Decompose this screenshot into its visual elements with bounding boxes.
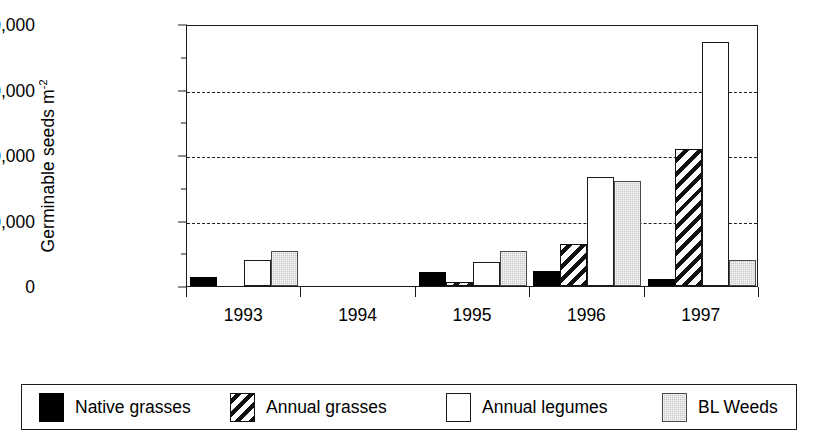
legend-swatch-white-outline xyxy=(446,393,471,422)
bar-1995-bl-weeds xyxy=(500,251,527,286)
bar-1993-bl-weeds xyxy=(271,251,298,286)
bar-1993-native-grasses xyxy=(190,277,217,286)
legend-swatch-gray-fill xyxy=(662,393,687,422)
gridline xyxy=(187,92,757,93)
x-axis-tick-mark xyxy=(415,287,416,297)
y-axis-title-exponent: -2 xyxy=(37,79,49,89)
bar-1996-native-grasses xyxy=(533,271,560,286)
bar-1995-annual-grasses xyxy=(446,282,473,286)
legend-item-bl-weeds[interactable]: BL Weeds xyxy=(662,393,778,422)
plot-inner xyxy=(187,26,757,286)
bar-1997-native-grasses xyxy=(648,279,675,286)
legend-item-native-grasses[interactable]: Native grasses xyxy=(39,393,191,422)
y-axis-tick-label: 20,000 xyxy=(0,146,35,167)
bar-1996-annual-legumes xyxy=(587,177,614,286)
legend-item-annual-legumes[interactable]: Annual legumes xyxy=(446,393,608,422)
chart-figure: Germinable seeds m-2 010,00020,00030,000… xyxy=(0,0,818,443)
x-axis-label-1996: 1996 xyxy=(526,305,646,326)
legend-label: Native grasses xyxy=(75,397,191,418)
x-axis-label-1993: 1993 xyxy=(183,305,303,326)
y-axis-tick-label: 40,000 xyxy=(0,15,35,36)
legend-label: Annual legumes xyxy=(482,397,608,418)
y-axis-title: Germinable seeds m-2 xyxy=(37,36,59,296)
y-axis-title-text: Germinable seeds m xyxy=(38,89,58,252)
bar-1997-annual-grasses xyxy=(675,149,702,286)
x-axis-label-1995: 1995 xyxy=(412,305,532,326)
plot-area xyxy=(186,25,758,287)
y-axis-tick-label: 0 xyxy=(0,277,35,298)
y-axis-tick-label: 10,000 xyxy=(0,211,35,232)
x-axis-tick-mark xyxy=(644,287,645,297)
legend-swatch-solid-black xyxy=(39,393,64,422)
bar-1995-annual-legumes xyxy=(473,262,500,286)
y-axis-tick-label: 30,000 xyxy=(0,80,35,101)
bar-1996-annual-grasses xyxy=(560,244,587,286)
x-axis-tick-mark xyxy=(300,287,301,297)
legend-swatch-diagonal-hatch xyxy=(230,393,255,422)
x-axis-tick-mark xyxy=(186,287,187,297)
legend-label: BL Weeds xyxy=(698,397,778,418)
x-axis-tick-mark xyxy=(529,287,530,297)
x-axis-label-1994: 1994 xyxy=(298,305,418,326)
bar-1996-bl-weeds xyxy=(614,181,641,286)
legend-label: Annual grasses xyxy=(266,397,387,418)
bar-1997-annual-legumes xyxy=(702,42,729,286)
bar-1993-annual-legumes xyxy=(244,260,271,286)
x-axis-tick-mark xyxy=(758,287,759,297)
bar-1995-native-grasses xyxy=(419,272,446,286)
legend-item-annual-grasses[interactable]: Annual grasses xyxy=(230,393,387,422)
bar-1997-bl-weeds xyxy=(729,260,756,286)
gridline xyxy=(187,223,757,224)
x-axis-label-1997: 1997 xyxy=(641,305,761,326)
gridline xyxy=(187,157,757,158)
chart-legend: Native grassesAnnual grassesAnnual legum… xyxy=(21,384,797,430)
